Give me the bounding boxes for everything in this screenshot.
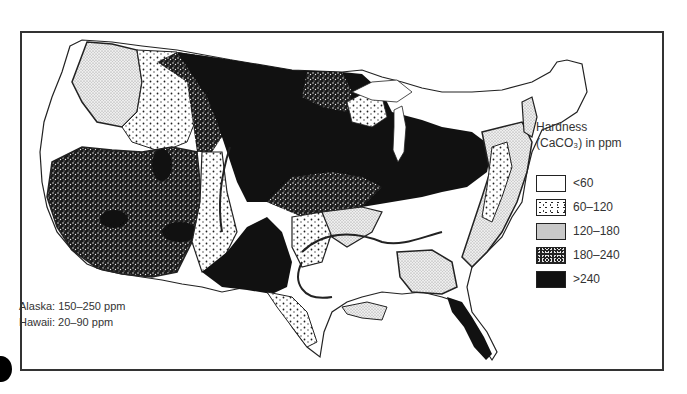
- legend-title-line1: Hardness: [536, 119, 646, 135]
- legend-title: Hardness (CaCO₃) in ppm: [536, 119, 646, 151]
- state-notes: Alaska: 150–250 ppm Hawaii: 20–90 ppm: [19, 298, 125, 330]
- legend-item-lt60: <60: [536, 171, 646, 195]
- alaska-note: Alaska: 150–250 ppm: [19, 298, 125, 314]
- legend-label: 120–180: [573, 224, 620, 238]
- legend-item-60-120: 60–120: [536, 195, 646, 219]
- legend-label: 180–240: [573, 248, 620, 262]
- legend-item-gt240: >240: [536, 267, 646, 291]
- swatch-solid-black: [536, 271, 566, 288]
- swatch-white: [536, 175, 566, 192]
- legend-label: >240: [573, 272, 600, 286]
- swatch-fine-stipple: [536, 223, 566, 240]
- corner-artifact: [0, 356, 12, 382]
- swatch-sparse-dots: [536, 199, 566, 216]
- legend-title-line2: (CaCO₃) in ppm: [536, 135, 646, 151]
- legend-label: 60–120: [573, 200, 613, 214]
- legend-item-180-240: 180–240: [536, 243, 646, 267]
- hawaii-note: Hawaii: 20–90 ppm: [19, 314, 125, 330]
- swatch-dense-speckle: [536, 247, 566, 264]
- legend-item-120-180: 120–180: [536, 219, 646, 243]
- legend-label: <60: [573, 176, 593, 190]
- legend: Hardness (CaCO₃) in ppm <60 60–120 120–1…: [536, 119, 646, 291]
